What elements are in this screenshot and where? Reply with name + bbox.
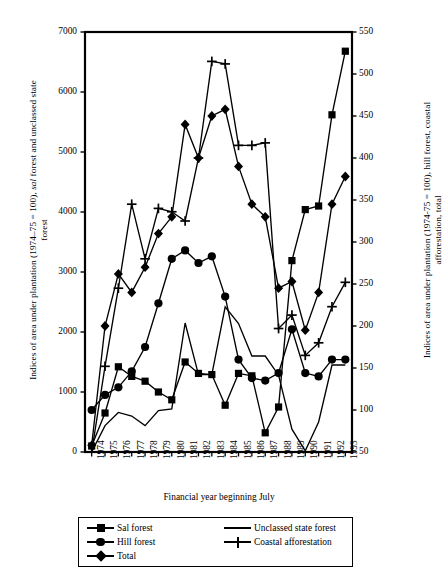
y-axis-left-tick-label: 2000 — [37, 326, 77, 336]
marker-square — [182, 358, 189, 365]
marker-circle — [141, 343, 149, 351]
marker-square — [168, 396, 175, 403]
y-axis-left-tick-label: 5000 — [37, 146, 77, 156]
x-axis-tick-label: 1992 — [336, 419, 346, 459]
x-axis-tick-label: 1984 — [229, 419, 239, 459]
marker-square — [115, 363, 122, 370]
marker-diamond — [341, 172, 350, 182]
marker-circle — [88, 406, 96, 414]
marker-diamond — [207, 111, 216, 121]
legend-item-unclassed-state-forest[interactable]: Unclassed state forest — [224, 522, 336, 533]
x-axis-tick-label: 1987 — [269, 419, 279, 459]
legend-label: Coastal afforestation — [251, 537, 332, 547]
marker-circle — [328, 356, 336, 364]
marker-diamond — [181, 120, 190, 130]
marker-square — [101, 409, 108, 416]
y-axis-right-tick-label: 300 — [359, 236, 393, 246]
x-axis-tick-label: 1974 — [96, 419, 106, 459]
marker-square — [342, 48, 349, 55]
x-axis-tick-label: 1982 — [202, 419, 212, 459]
legend-symbol — [224, 536, 251, 547]
legend-label: Unclassed state forest — [251, 523, 336, 533]
legend-symbol — [87, 536, 114, 547]
legend-marker-circle — [96, 538, 105, 547]
marker-circle — [114, 383, 122, 391]
series-sal-forest — [88, 48, 349, 450]
x-axis-tick-label: 1985 — [243, 419, 253, 459]
marker-circle — [181, 246, 189, 254]
y-axis-right-tick-label: 50 — [359, 446, 393, 456]
legend-item-hill-forest[interactable]: Hill forest — [87, 536, 155, 547]
marker-square — [155, 388, 162, 395]
y-axis-left-tick-label: 4000 — [37, 206, 77, 216]
y-axis-right-tick-label: 100 — [359, 404, 393, 414]
legend-item-total[interactable]: Total — [87, 550, 136, 561]
y-axis-right-tick-label: 350 — [359, 194, 393, 204]
marker-diamond — [287, 277, 296, 287]
marker-diamond — [327, 199, 336, 209]
y-axis-left-tick-label: 3000 — [37, 266, 77, 276]
marker-circle — [208, 252, 216, 260]
y-axis-left-tick-label: 1000 — [37, 386, 77, 396]
legend-marker-diamond — [95, 550, 106, 561]
x-axis-tick-label: 1993 — [349, 419, 359, 459]
marker-circle — [315, 372, 323, 380]
legend-label: Total — [114, 551, 136, 561]
marker-circle — [288, 325, 296, 333]
marker-square — [315, 202, 322, 209]
marker-circle — [101, 391, 109, 399]
marker-diamond — [301, 325, 310, 335]
marker-circle — [154, 299, 162, 307]
series-group — [87, 48, 350, 457]
x-axis-tick-label: 1990 — [309, 419, 319, 459]
y-axis-left-tick-label: 7000 — [37, 26, 77, 36]
x-axis-tick-label: 1986 — [256, 419, 266, 459]
marker-circle — [194, 259, 202, 267]
legend-item-sal-forest[interactable]: Sal forest — [87, 522, 153, 533]
marker-circle — [128, 367, 136, 375]
marker-circle — [248, 374, 256, 382]
y-axis-right-tick-label: 200 — [359, 320, 393, 330]
x-axis-tick-label: 1976 — [122, 419, 132, 459]
y-axis-right-tick-label: 500 — [359, 68, 393, 78]
y-axis-right-tick-label: 400 — [359, 152, 393, 162]
marker-square — [328, 111, 335, 118]
marker-square — [302, 206, 309, 213]
y-axis-right-title: Indices of area under plantation (1974-7… — [422, 80, 444, 380]
legend-marker-square — [97, 524, 105, 532]
y-axis-right-tick-label: 450 — [359, 110, 393, 120]
y-axis-left-tick-label: 0 — [37, 446, 77, 456]
y-axis-right-tick-label: 250 — [359, 278, 393, 288]
marker-circle — [221, 293, 229, 301]
marker-square — [222, 402, 229, 409]
marker-circle — [261, 377, 269, 385]
marker-diamond — [314, 288, 323, 298]
legend-label: Hill forest — [114, 537, 155, 547]
x-axis-tick-label: 1989 — [296, 419, 306, 459]
series-line — [92, 61, 346, 452]
x-axis-tick-label: 1975 — [109, 419, 119, 459]
y-axis-left-title-italic: sal — [28, 179, 38, 190]
x-axis-tick-label: 1981 — [189, 419, 199, 459]
legend-item-coastal-afforestation[interactable]: Coastal afforestation — [224, 536, 332, 547]
legend-label: Sal forest — [114, 523, 153, 533]
x-axis-tick-label: 1991 — [323, 419, 333, 459]
x-axis-tick-label: 1983 — [216, 419, 226, 459]
chart-legend: Sal forestHill forestTotalUnclassed stat… — [78, 517, 353, 567]
marker-circle — [168, 255, 176, 263]
series-line — [92, 51, 346, 446]
legend-symbol — [87, 522, 114, 533]
y-axis-left-title-part1: Indices of area under plantation (1974–7… — [28, 190, 38, 380]
marker-diamond — [141, 262, 150, 272]
marker-square — [275, 403, 282, 410]
x-axis-tick-label: 1988 — [283, 419, 293, 459]
legend-marker-plus — [237, 537, 239, 548]
marker-square — [288, 257, 295, 264]
legend-symbol — [224, 522, 251, 533]
marker-diamond — [221, 104, 230, 114]
series-coastal-afforestation — [87, 57, 350, 457]
legend-symbol — [87, 550, 114, 561]
marker-diamond — [234, 162, 243, 172]
y-axis-right-tick-label: 550 — [359, 26, 393, 36]
